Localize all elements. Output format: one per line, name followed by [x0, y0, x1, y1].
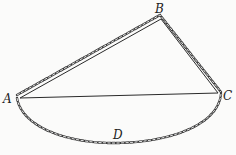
- label-d: D: [112, 128, 123, 142]
- segment-ac: [20, 93, 218, 98]
- triangle-chain-diagram: A B C D: [0, 0, 236, 155]
- segment-ab: [20, 19, 161, 98]
- label-b: B: [154, 2, 164, 16]
- label-c: C: [223, 89, 232, 103]
- label-a: A: [2, 92, 12, 106]
- segment-bc: [161, 19, 218, 93]
